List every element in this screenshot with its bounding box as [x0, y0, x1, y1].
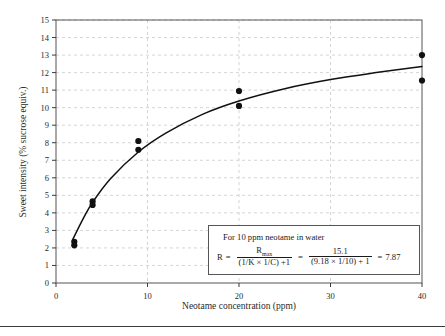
formula-frac1-num-subscript: max: [262, 251, 272, 257]
y-tick-label: 11: [41, 85, 49, 95]
data-point-marker: [419, 52, 425, 58]
x-tick-label: 40: [418, 291, 427, 301]
data-point-marker: [236, 88, 242, 94]
data-point-marker: [71, 242, 77, 248]
y-tick-label: 0: [45, 278, 49, 288]
x-tick-label: 30: [326, 291, 335, 301]
data-point-markers: [71, 52, 425, 248]
formula-equals-2: =: [298, 252, 303, 262]
x-axis-ticks: [56, 283, 422, 287]
x-tick-label: 0: [54, 291, 58, 301]
y-axis-tick-labels: 0123456789101112131415: [41, 15, 50, 288]
x-tick-label: 10: [143, 291, 152, 301]
y-tick-label: 5: [45, 190, 49, 200]
x-axis-tick-labels: 010203040: [54, 291, 426, 301]
scatter-plot-canvas: 0123456789101112131415 010203040 Neotame…: [0, 0, 445, 336]
formula-fraction-2: 15.1 (9.18 × 1/10) + 1: [309, 247, 372, 266]
formula-frac2-denominator: (9.18 × 1/10) + 1: [309, 256, 372, 266]
y-tick-label: 7: [45, 155, 49, 165]
y-tick-label: 10: [41, 103, 50, 113]
fitted-saturation-curve: [72, 66, 422, 240]
page-bottom-rule: [0, 326, 445, 327]
data-point-marker: [236, 103, 242, 109]
y-tick-label: 4: [45, 208, 50, 218]
y-tick-label: 14: [41, 33, 50, 43]
annotation-line-1: For 10 ppm neotame in water: [223, 232, 419, 242]
formula-equals-1: =: [226, 252, 231, 262]
formula-fraction-1: Rmax (1/K × 1/C) +1: [237, 246, 292, 267]
y-tick-label: 12: [41, 68, 50, 78]
y-tick-label: 9: [45, 120, 49, 130]
formula-frac1-denominator: (1/K × 1/C) +1: [237, 257, 292, 267]
y-axis-title: Sweet intensity (% sucrose equiv.): [18, 86, 29, 217]
data-point-marker: [135, 147, 141, 153]
formula-lead-symbol: R: [217, 252, 223, 262]
x-axis-title: Neotame concentration (ppm): [182, 301, 296, 312]
y-tick-label: 1: [45, 260, 49, 270]
y-tick-label: 3: [45, 225, 49, 235]
formula-frac1-numerator: Rmax: [253, 246, 275, 257]
y-tick-label: 6: [45, 173, 49, 183]
formula-equals-3: =: [378, 252, 383, 262]
annotation-formula-box: For 10 ppm neotame in water R = Rmax (1/…: [208, 225, 420, 275]
formula-frac2-numerator: 15.1: [330, 247, 351, 256]
formula-result-value: 7.87: [385, 252, 400, 262]
data-point-marker: [419, 77, 425, 83]
y-tick-label: 2: [45, 243, 49, 253]
y-tick-label: 13: [41, 50, 50, 60]
neotame-sweetness-figure: 0123456789101112131415 010203040 Neotame…: [0, 0, 445, 336]
y-tick-label: 15: [41, 15, 50, 25]
x-tick-label: 20: [235, 291, 244, 301]
data-point-marker: [135, 138, 141, 144]
y-tick-label: 8: [45, 138, 49, 148]
data-point-marker: [90, 202, 96, 208]
y-axis-ticks: [52, 20, 56, 283]
